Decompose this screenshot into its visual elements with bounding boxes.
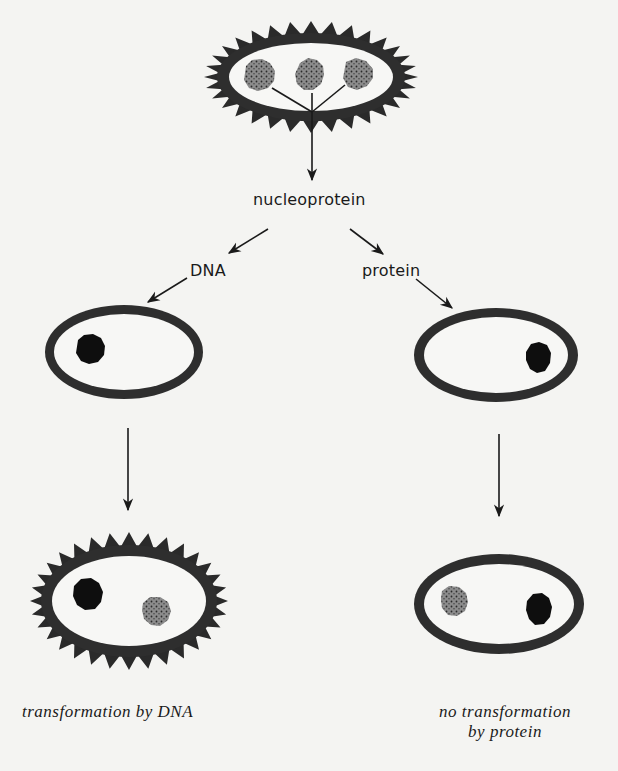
arrow-protein-to-cell	[416, 279, 452, 308]
recipient-cell-dna	[45, 305, 203, 399]
caption-no-transformation: no transformation by protein	[420, 702, 590, 742]
transformed-cell	[30, 532, 228, 670]
untransformed-cell	[414, 554, 584, 654]
caption-right-line1: no transformation	[420, 702, 590, 722]
label-protein: protein	[362, 261, 420, 280]
label-nucleoprotein: nucleoprotein	[253, 190, 366, 209]
arrow-to-protein	[350, 229, 383, 254]
donor-cell	[204, 21, 418, 133]
recipient-cell-protein	[414, 308, 578, 402]
caption-transformation-by-dna: transformation by DNA	[22, 702, 193, 722]
arrow-to-dna	[229, 229, 268, 253]
caption-right-line2: by protein	[420, 722, 590, 742]
arrow-dna-to-cell	[148, 278, 187, 302]
diagram: nucleoprotein DNA protein transformation…	[0, 0, 618, 771]
label-dna: DNA	[190, 261, 226, 280]
